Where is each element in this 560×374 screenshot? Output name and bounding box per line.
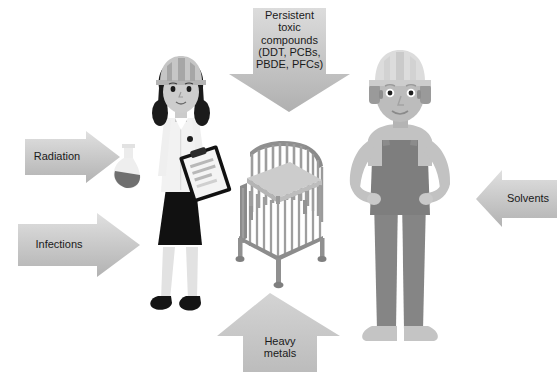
male-right-shoe (404, 326, 438, 341)
female-hard-hat (156, 56, 206, 85)
female-left-shoe (150, 296, 172, 310)
female-left-leg (161, 247, 175, 300)
flask-icon (114, 144, 140, 188)
male-left-shoe (362, 326, 397, 341)
male-left-leg (374, 200, 398, 330)
female-worker-figure (114, 56, 232, 311)
male-overalls (370, 160, 430, 215)
crib-illustration (236, 141, 327, 288)
male-hard-hat (369, 50, 431, 86)
female-right-shoe (179, 296, 201, 311)
infographic-canvas: Persistent toxic compounds (DDT, PCBs, P… (0, 0, 560, 374)
illustration-layer (0, 0, 560, 374)
male-right-leg (402, 200, 426, 330)
male-worker-figure (350, 50, 450, 341)
female-right-leg (186, 247, 198, 300)
